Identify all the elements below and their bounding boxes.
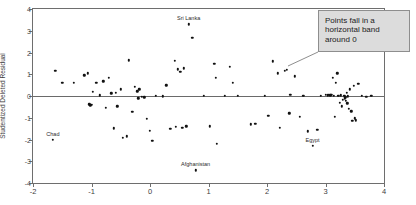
data-point [276,72,278,74]
data-point [131,110,133,112]
data-point [336,72,338,74]
data-point [115,92,117,94]
x-tick-label: 2 [265,188,269,196]
data-point [185,125,187,127]
x-tick-label: 0 [148,188,152,196]
data-point [350,110,352,112]
point-label: Afghanistan [181,162,210,168]
data-point [307,130,309,132]
data-point [61,82,63,84]
data-point [335,81,337,83]
data-point [294,75,296,77]
data-point [345,92,347,94]
y-axis-title: Studentized Deleted Residual [0,53,6,139]
data-point [316,129,318,131]
data-point [357,83,359,85]
data-point [128,59,130,61]
data-point [181,126,183,128]
x-tick-label: -2 [30,188,37,196]
data-point [228,65,230,67]
data-point [194,169,196,171]
data-point [213,63,215,65]
y-tick-label: 0 [27,93,31,100]
data-point [149,130,151,132]
data-point [175,126,177,128]
data-point [110,92,112,94]
data-point [165,84,167,86]
data-point [134,86,136,88]
y-tick-label: -3 [25,158,31,165]
x-tick-label: 1 [206,188,210,196]
data-point [351,120,353,122]
data-point [215,143,217,145]
data-point [87,72,89,74]
data-point [299,115,301,117]
data-point [52,139,54,141]
point-label: Egypt [306,138,320,144]
y-tick-label: -4 [25,180,31,187]
data-point [125,135,127,137]
data-point [54,70,56,72]
x-tick-label: -1 [88,188,95,196]
data-point [267,114,269,116]
data-point [352,84,354,86]
point-label: Chad [46,131,59,137]
zero-reference-line [33,96,384,97]
data-point [91,91,93,93]
data-point [331,76,333,78]
point-label: Sri Lanka [177,16,200,22]
data-point [346,102,348,104]
data-point [208,125,210,127]
data-point [349,88,351,90]
data-point [288,112,290,114]
x-tick-label: 3 [323,188,327,196]
data-point [173,60,175,62]
data-point [108,76,110,78]
annotation-callout: Points fall in a horizontal band around … [318,10,410,52]
data-point [355,119,357,121]
data-point [279,126,281,128]
data-point [169,127,171,129]
data-point [73,82,75,84]
data-point [122,137,124,139]
data-point [138,88,140,90]
data-point [334,115,336,117]
y-tick-label: 3 [27,27,31,34]
y-tick-label: 4 [27,6,31,13]
data-point [137,97,139,99]
data-point [146,118,148,120]
data-point [102,80,104,82]
data-point [254,123,256,125]
chart-canvas: Studentized Deleted Residual -4-3-2-1012… [0,0,416,205]
data-point [232,82,234,84]
y-tick-label: -2 [25,136,31,143]
data-point [214,76,216,78]
data-point [151,139,153,141]
data-point [191,37,193,39]
data-point [286,69,288,71]
data-point [95,81,97,83]
data-point [311,145,313,147]
data-point [136,90,138,92]
data-point [104,107,106,109]
data-point [183,67,185,69]
data-point [120,88,122,90]
data-point [338,101,340,103]
y-tick-label: 2 [27,49,31,56]
data-point [341,105,343,107]
data-point [187,23,189,25]
y-tick-label: 1 [27,71,31,78]
data-point [249,123,251,125]
x-tick-label: 4 [382,188,386,196]
data-point [113,127,115,129]
data-point [272,60,274,62]
y-tick-label: -1 [25,114,31,121]
data-point [116,105,118,107]
data-point [179,71,181,73]
data-point [83,74,85,76]
